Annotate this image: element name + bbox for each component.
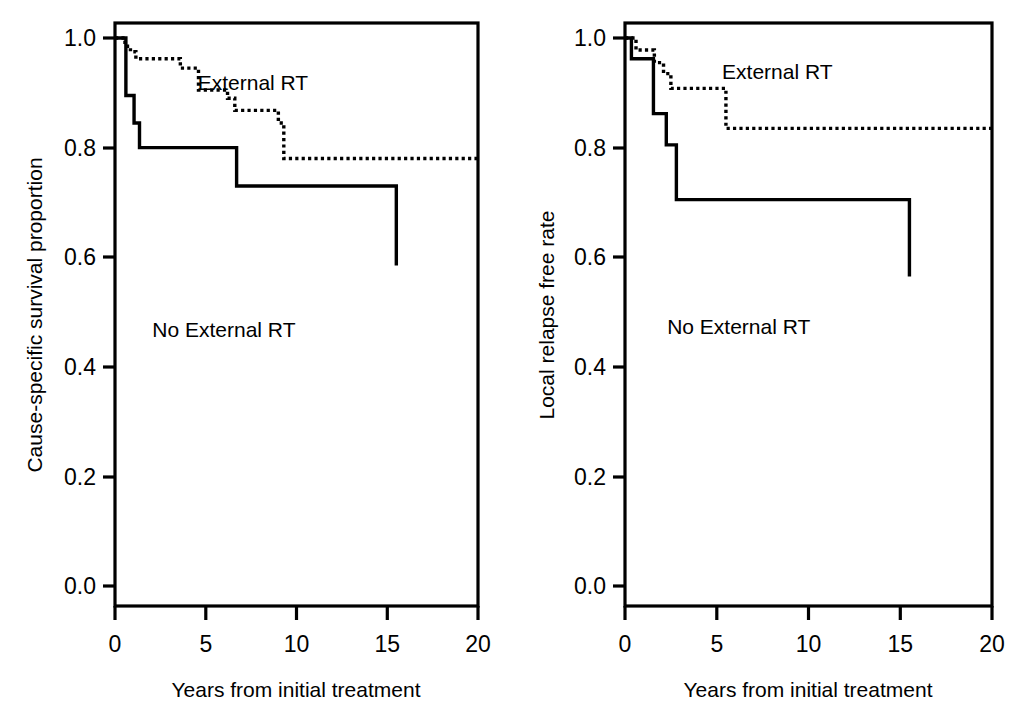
y-tick-label-04: 0.4 xyxy=(574,354,606,380)
y-tick-label-04: 0.4 xyxy=(64,354,96,380)
y-tick-label-06: 0.6 xyxy=(64,244,96,270)
kaplan-meier-figure: 1.0 0.8 0.6 0.4 0.2 0.0 0 5 10 15 20 Yea… xyxy=(0,0,1019,719)
x-tick-label-10: 10 xyxy=(796,631,822,657)
y-axis-title-right: Local relapse free rate xyxy=(535,211,558,420)
series-label-external-rt-right: External RT xyxy=(722,60,833,83)
x-tick-label-0: 0 xyxy=(109,631,122,657)
y-tick-label-00: 0.0 xyxy=(64,573,96,599)
x-tick-label-20: 20 xyxy=(979,631,1005,657)
series-label-no-external-rt-left: No External RT xyxy=(152,318,295,341)
panel-right-svg: 1.0 0.8 0.6 0.4 0.2 0.0 0 5 10 15 20 Yea… xyxy=(509,0,1019,719)
x-axis-title-right: Years from initial treatment xyxy=(684,678,933,701)
y-axis-title-left: Cause-specific survival proportion xyxy=(23,157,46,472)
x-tick-label-15: 15 xyxy=(375,631,401,657)
curve-external-rt-left xyxy=(115,38,478,159)
series-label-external-rt-left: External RT xyxy=(198,71,309,94)
x-axis-ticks-right xyxy=(625,606,992,620)
x-tick-label-15: 15 xyxy=(888,631,914,657)
x-tick-label-0: 0 xyxy=(619,631,632,657)
x-tick-label-10: 10 xyxy=(284,631,310,657)
y-tick-label-08: 0.8 xyxy=(574,135,606,161)
x-tick-label-20: 20 xyxy=(465,631,491,657)
x-tick-label-5: 5 xyxy=(199,631,212,657)
plot-frame-left xyxy=(115,23,478,606)
panel-right: 1.0 0.8 0.6 0.4 0.2 0.0 0 5 10 15 20 Yea… xyxy=(509,0,1019,719)
y-tick-label-06: 0.6 xyxy=(574,244,606,270)
x-axis-ticks-left xyxy=(115,606,478,620)
y-tick-label-1: 1.0 xyxy=(574,25,606,51)
x-tick-label-5: 5 xyxy=(710,631,723,657)
y-tick-label-02: 0.2 xyxy=(574,464,606,490)
y-tick-label-1: 1.0 xyxy=(64,25,96,51)
y-axis-ticks-right xyxy=(613,38,625,586)
y-tick-label-00: 0.0 xyxy=(574,573,606,599)
curve-external-rt-right xyxy=(625,38,992,128)
y-axis-ticks-left xyxy=(103,38,115,586)
y-tick-label-02: 0.2 xyxy=(64,464,96,490)
y-tick-label-08: 0.8 xyxy=(64,135,96,161)
panel-left: 1.0 0.8 0.6 0.4 0.2 0.0 0 5 10 15 20 Yea… xyxy=(0,0,510,719)
panel-left-svg: 1.0 0.8 0.6 0.4 0.2 0.0 0 5 10 15 20 Yea… xyxy=(0,0,510,719)
series-label-no-external-rt-right: No External RT xyxy=(667,315,810,338)
x-axis-title-left: Years from initial treatment xyxy=(172,678,421,701)
